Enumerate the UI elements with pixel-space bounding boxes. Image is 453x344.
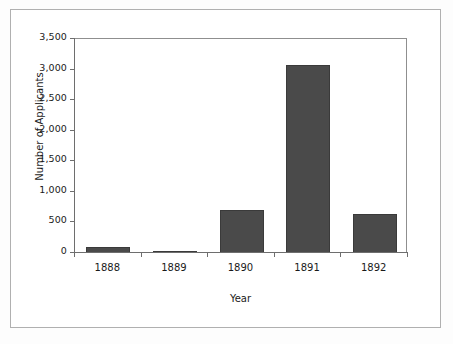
y-tick-label: 0 [61,245,67,256]
figure-border: Number of Applicants 05001,0001,5002,000… [10,9,441,328]
y-axis-tick: 2,000 [11,130,74,131]
y-axis-tick: 1,500 [11,160,74,161]
bar-1892 [353,214,397,253]
y-tick-label: 2,000 [39,123,67,134]
y-axis-tick: 0 [11,252,74,253]
y-tick-label: 3,500 [39,31,67,42]
x-axis-tick [74,253,75,257]
x-tick-label: 1888 [74,262,141,273]
x-tick-label: 1892 [340,262,407,273]
y-axis-tick: 3,000 [11,69,74,70]
x-axis-title: Year [74,293,407,304]
x-tick-label: 1891 [274,262,341,273]
x-axis-tick [407,253,408,257]
scanned-page: Number of Applicants 05001,0001,5002,000… [0,0,453,344]
bar-1890 [220,210,264,253]
y-tick-label: 500 [49,214,67,225]
y-tick-label: 1,500 [39,153,67,164]
x-axis-tick [274,253,275,257]
x-tick-label: 1889 [141,262,208,273]
x-axis-line [74,252,408,253]
y-tick-label: 1,000 [39,184,67,195]
plot-area [74,38,407,252]
bar-1891 [286,65,330,253]
x-axis-tick [207,253,208,257]
x-axis-tick [340,253,341,257]
bar-chart-figure: Number of Applicants 05001,0001,5002,000… [11,10,442,329]
x-axis-tick [141,253,142,257]
y-axis-tick: 500 [11,221,74,222]
y-axis-tick: 2,500 [11,99,74,100]
y-tick-label: 3,000 [39,62,67,73]
y-axis-tick: 3,500 [11,38,74,39]
x-tick-label: 1890 [207,262,274,273]
y-tick-label: 2,500 [39,92,67,103]
y-axis-line [74,38,75,253]
y-axis-tick: 1,000 [11,191,74,192]
